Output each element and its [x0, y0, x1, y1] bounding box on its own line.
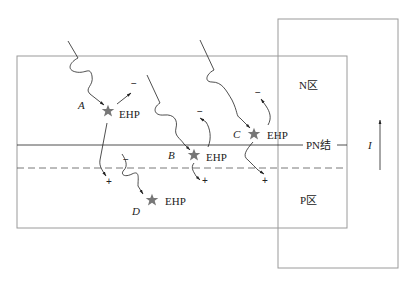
photon-a	[68, 41, 104, 105]
electron-arrow-a	[117, 93, 131, 104]
photon-b	[147, 75, 190, 150]
ehp-c: EHP	[267, 129, 288, 141]
minus-d: −	[123, 154, 129, 165]
plus-b: +	[202, 175, 208, 186]
minus-b: −	[197, 106, 203, 117]
pn-junction-label: PN结	[306, 139, 331, 151]
ehp-star-c	[248, 128, 261, 140]
electron-path-b	[200, 118, 210, 147]
event-a: A EHP − +	[68, 41, 140, 187]
ehp-b: EHP	[206, 151, 227, 163]
ehp-star-b	[188, 149, 201, 161]
event-b: B EHP − +	[147, 75, 227, 186]
pn-junction-diagram: I N区 PN结 P区 A EHP − + B EHP − + C EHP − …	[0, 0, 413, 282]
electron-path-c	[261, 99, 270, 125]
current-label: I	[367, 139, 373, 151]
label-c: C	[233, 128, 241, 140]
event-d: D EHP −	[122, 154, 186, 217]
ehp-a: EHP	[119, 108, 140, 120]
plus-c: +	[262, 175, 268, 186]
label-a: A	[77, 99, 85, 111]
hole-path-c	[245, 142, 264, 174]
minus-c: −	[255, 87, 261, 98]
plus-a: +	[106, 176, 112, 187]
ehp-d: EHP	[165, 195, 186, 207]
minus-a: −	[131, 78, 137, 89]
label-b: B	[168, 149, 175, 161]
ehp-star-d	[146, 194, 159, 206]
event-c: C EHP − +	[200, 40, 288, 186]
hole-path-b	[192, 163, 200, 180]
label-d: D	[131, 205, 140, 217]
p-region-label: P区	[300, 194, 317, 206]
ehp-star-a	[102, 105, 115, 117]
n-region-label: N区	[299, 79, 318, 91]
photon-c	[200, 40, 250, 128]
